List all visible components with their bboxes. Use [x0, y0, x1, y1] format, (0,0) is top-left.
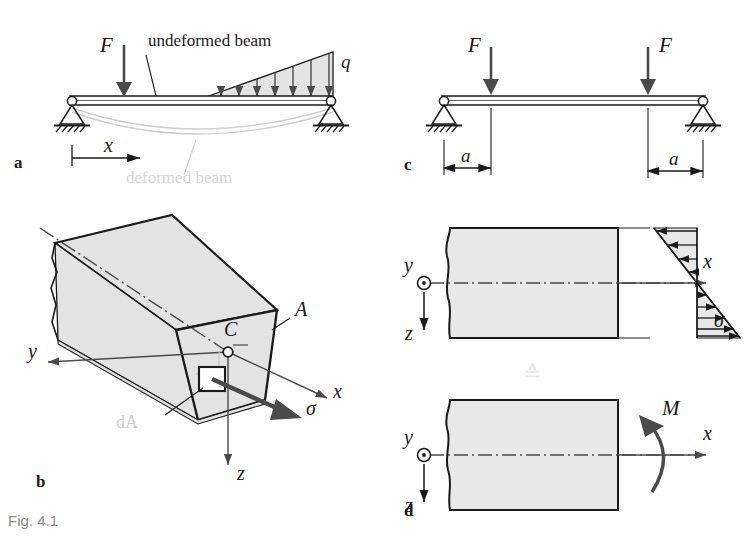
element-label-dA: dA	[116, 412, 138, 432]
dimension-label-a-left: a	[461, 145, 471, 166]
undeformed-beam-body	[70, 96, 333, 105]
axis-label-x-a: x	[103, 134, 113, 156]
panel-label-a: a	[14, 153, 23, 172]
equivalence-symbol: ≙	[523, 361, 541, 386]
force-label-F-c-right: F	[658, 33, 672, 57]
panel-label-b: b	[36, 472, 45, 491]
axis-label-z-d-top: z	[404, 322, 413, 344]
beam-body-c	[442, 96, 705, 105]
dimension-label-a-right: a	[669, 148, 679, 169]
deformed-beam-label: deformed beam	[126, 168, 232, 187]
panel-label-d: d	[404, 501, 414, 520]
moment-label-M: M	[661, 396, 681, 420]
axis-label-y-b: y	[26, 340, 37, 363]
area-label-A: A	[293, 298, 308, 320]
undeformed-beam-label: undeformed beam	[148, 31, 271, 50]
load-label-q: q	[341, 51, 351, 72]
axis-label-y-d-top: y	[402, 254, 413, 277]
axis-label-x-d-top: x	[702, 250, 712, 272]
force-label-F-a: F	[99, 33, 113, 57]
axis-label-y-d-bottom: y	[402, 426, 413, 449]
figure-container: q F	[0, 0, 752, 557]
figure-caption: Fig. 4.1	[8, 512, 58, 529]
stress-label-sigma-b: σ	[306, 397, 317, 419]
centroid-label-C: C	[224, 318, 238, 340]
panel-label-c: c	[404, 155, 412, 174]
axis-label-x-d-bottom: x	[702, 422, 712, 444]
force-label-F-c-left: F	[467, 33, 481, 57]
figure-4-1-svg: q F	[0, 0, 752, 557]
stress-label-sigma-d: σ	[714, 309, 725, 331]
axis-label-z-b: z	[236, 462, 245, 484]
axis-label-x-b: x	[332, 380, 342, 402]
